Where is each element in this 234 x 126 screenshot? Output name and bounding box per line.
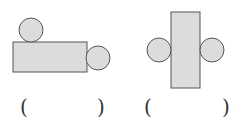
figure-2-rectangle: [171, 12, 200, 88]
figure-2-answer-open-paren: (: [144, 97, 152, 117]
figure-1-answer-blank[interactable]: [44, 100, 94, 116]
figure-2-net: [147, 12, 224, 88]
figure-1-net: [13, 18, 110, 72]
figure-1-answer-close-paren: ): [97, 97, 105, 117]
figure-2-left-circle: [147, 38, 171, 62]
figure-1-right-circle: [86, 46, 110, 70]
figure-1-top-circle: [19, 18, 43, 42]
figure-1-answer-open-paren: (: [20, 97, 28, 117]
figure-1-rectangle: [13, 42, 87, 72]
figure-2-answer-blank[interactable]: [160, 100, 210, 116]
figure-2-right-circle: [200, 38, 224, 62]
figure-2-answer-close-paren: ): [222, 97, 230, 117]
